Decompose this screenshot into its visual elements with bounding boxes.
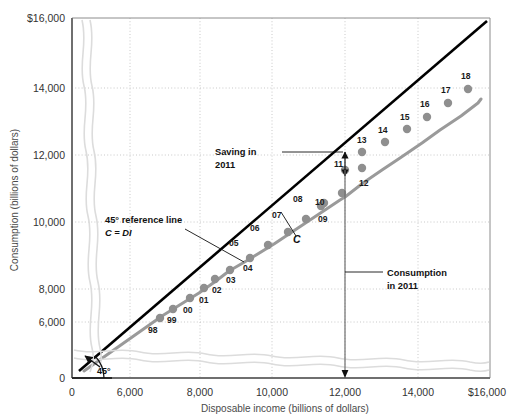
point-label-98: 98 [148,325,158,335]
data-point-16 [423,113,431,121]
ref-line-label-1: 45° reference line [105,215,182,225]
point-label-14: 14 [378,125,388,135]
point-label-99: 99 [167,315,177,325]
x-tick-12000: 12,000 [329,386,361,398]
data-point-00 [186,294,194,302]
data-point-99 [169,305,177,313]
y-tick-8000: 8,000 [39,283,65,295]
x-tick-16000: $16,000 [468,386,506,398]
data-point-05 [264,241,272,249]
point-label-11: 11 [334,159,343,169]
y-tick-0: 0 [59,372,65,384]
point-label-17: 17 [441,85,451,95]
data-point-03 [226,266,234,274]
consumption-2011-line1: Consumption [387,268,447,278]
data-point-01 [200,284,208,292]
data-point-13 [358,148,366,156]
data-point-06 [284,228,292,236]
x-tick-6000: 6,000 [117,386,143,398]
point-label-02: 02 [212,285,222,295]
point-label-16: 16 [420,99,430,109]
point-label-01: 01 [199,295,209,305]
x-tick-10000: 10,000 [256,386,288,398]
point-label-12: 12 [359,178,369,188]
point-label-10: 10 [315,197,325,207]
y-tick-10000: 10,000 [33,216,65,228]
point-label-09: 09 [318,214,328,224]
point-label-00: 00 [183,305,193,315]
x-tick-14000: 14,000 [402,386,434,398]
y-tick-12000: 12,000 [33,149,65,161]
y-tick-6000: 6,000 [39,316,65,328]
y-tick-14000: 14,000 [33,82,65,94]
consumption-2011-line2: in 2011 [387,281,418,291]
data-point-15 [403,125,411,133]
chart-svg: $16,000 14,000 12,000 10,000 8,000 6,000… [0,0,513,417]
data-point-14 [381,138,389,146]
point-label-08: 08 [293,194,303,204]
x-tick-0: 0 [69,386,75,398]
point-label-03: 03 [226,275,236,285]
saving-2011-line2: 2011 [215,160,235,170]
x-tick-labels: 0 6,000 8,000 10,000 12,000 14,000 $16,0… [69,386,506,398]
saving-2011-line1: Saving in [215,147,257,157]
point-label-07: 07 [272,210,282,220]
data-point-02 [211,275,219,283]
data-point-98 [156,314,164,322]
data-point-17 [444,99,452,107]
data-point-07 [302,215,310,223]
point-label-13: 13 [357,135,367,145]
point-label-18: 18 [461,71,471,81]
x-tick-8000: 8,000 [187,386,213,398]
angle-45-label: 45° [97,366,111,376]
point-label-15: 15 [400,112,410,122]
y-tick-16000: $16,000 [27,12,65,24]
c-curve-label: C [293,233,301,245]
y-axis-title: Consumption (billions of dollars) [9,129,20,271]
data-point-04 [246,254,254,262]
x-axis-title: Disposable income (billions of dollars) [201,403,369,414]
point-label-05: 05 [229,238,239,248]
ref-line-label-2: C = DI [105,228,132,238]
point-label-04: 04 [243,263,253,273]
data-point-12 [358,164,366,172]
data-point-18 [464,85,472,93]
point-label-06: 06 [250,223,260,233]
consumption-function-chart: $16,000 14,000 12,000 10,000 8,000 6,000… [0,0,513,417]
y-tick-labels: $16,000 14,000 12,000 10,000 8,000 6,000… [27,12,65,384]
